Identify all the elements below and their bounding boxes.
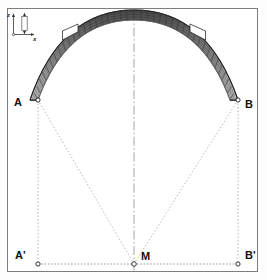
axis-label-x: x	[33, 36, 36, 42]
diagram-canvas	[0, 0, 267, 280]
node-marker-M[interactable]	[132, 262, 137, 267]
axis-z-arrowhead	[12, 14, 15, 17]
dimension-arrow	[22, 13, 27, 34]
dimension-arrow-head-top	[23, 13, 26, 16]
node-marker-A[interactable]	[36, 98, 40, 102]
node-markers	[36, 98, 240, 266]
point-label-A: A	[14, 97, 22, 108]
dimension-arrow-head-bottom	[23, 31, 26, 34]
point-label-B: B	[245, 99, 253, 110]
diagram-stage: z x A B A' M B'	[0, 0, 267, 280]
node-marker-A-prime[interactable]	[36, 262, 40, 266]
axis-origin-marker	[12, 33, 14, 35]
point-label-M: M	[141, 251, 150, 262]
point-label-A-prime: A'	[15, 250, 26, 261]
radius-line-mb	[134, 100, 238, 264]
point-label-B-prime: B'	[245, 250, 256, 261]
node-marker-B-prime[interactable]	[236, 262, 240, 266]
axis-label-z: z	[7, 12, 10, 18]
dimension-arrow-box	[22, 16, 27, 30]
node-marker-B[interactable]	[236, 98, 240, 102]
radius-line-ma	[38, 100, 134, 264]
